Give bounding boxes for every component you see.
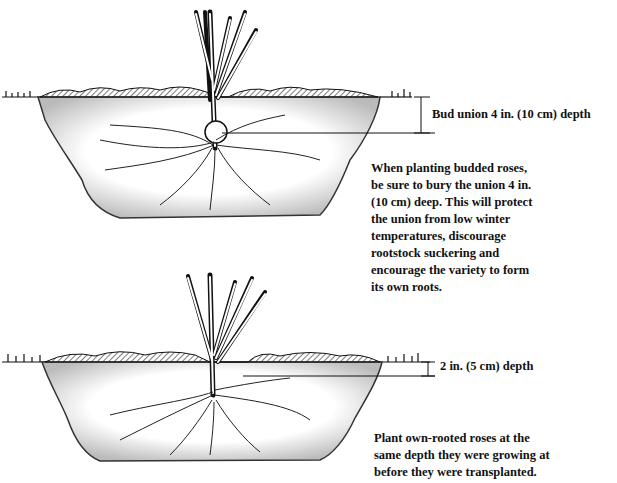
own-rooted-rose-diagram [2, 275, 435, 461]
caption-line: (10 cm) deep. This will protect [371, 194, 532, 211]
caption-line: before they were transplanted. [374, 464, 550, 481]
own-root-depth-label: 2 in. (5 cm) depth [440, 358, 533, 375]
caption-line: rootstock suckering and [371, 245, 532, 262]
caption-line: Plant own-rooted roses at the [374, 430, 550, 447]
caption-line: encourage the variety to form [371, 262, 532, 279]
budded-rose-caption: When planting budded roses, be sure to b… [371, 160, 532, 296]
caption-line: its own roots. [371, 279, 532, 296]
own-rooted-rose-caption: Plant own-rooted roses at the same depth… [374, 430, 550, 481]
caption-line: be sure to bury the union 4 in. [371, 177, 532, 194]
planting-hole-top [38, 97, 380, 218]
caption-line: When planting budded roses, [371, 160, 532, 177]
bud-union-depth-label: Bud union 4 in. (10 cm) depth [432, 106, 591, 123]
caption-line: the union from low winter [371, 211, 532, 228]
caption-line: temperatures, discourage [371, 228, 532, 245]
caption-line: same depth they were growing at [374, 447, 550, 464]
